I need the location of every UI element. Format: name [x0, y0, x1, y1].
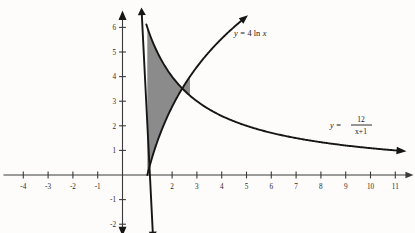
y-tick-label: 1	[112, 147, 116, 155]
eq1-lhs: y	[233, 29, 238, 38]
graph-figure: -4-3-2-1234567891011 -2-1123456 y=4lnx y…	[0, 0, 415, 233]
eq2-equals: =	[336, 121, 341, 130]
x-tick-label: 10	[367, 183, 375, 191]
y-tick-label: 6	[112, 24, 116, 32]
svg-text:y=4lnx: y=4lnx	[233, 29, 267, 38]
y-tick-label: 3	[112, 98, 116, 106]
eq1-equals: =	[240, 29, 245, 38]
x-tick-label: 7	[294, 183, 298, 191]
x-tick-label: 8	[319, 183, 323, 191]
x-tick-label: -4	[20, 183, 26, 191]
annotation-label-ln: y=4lnx	[233, 29, 267, 38]
coordinate-plane-svg: -4-3-2-1234567891011 -2-1123456 y=4lnx y…	[0, 0, 415, 233]
y-tick-label: -1	[110, 196, 116, 204]
x-tick-label: 5	[245, 183, 249, 191]
boundary-line-up-arrow-icon	[138, 8, 146, 16]
annotation-label-hyperbola: y= 12 x+1	[329, 115, 372, 136]
x-tick-label: 6	[270, 183, 274, 191]
x-tick-label: -3	[45, 183, 51, 191]
x-tick-label: -2	[70, 183, 76, 191]
x-axis-arrow-icon	[405, 172, 413, 178]
svg-text:y=: y=	[329, 121, 341, 130]
x-tick-label: 4	[220, 183, 224, 191]
eq2-numerator: 12	[357, 115, 365, 124]
curves-group	[138, 8, 407, 233]
axes-group	[3, 11, 413, 233]
x-tick-label: 9	[344, 183, 348, 191]
y-axis-down-arrow-icon	[119, 227, 127, 233]
y-tick-label: 4	[112, 73, 116, 81]
boundary-line-down-arrow-icon	[149, 231, 157, 233]
x-tick-label: 2	[170, 183, 174, 191]
y-axis-up-arrow-icon	[119, 11, 127, 21]
eq2-denominator: x+1	[355, 127, 367, 136]
y-axis-ticks: -2-1123456	[110, 24, 126, 229]
eq1-variable: x	[262, 29, 267, 38]
y-tick-label: 5	[112, 49, 116, 57]
x-tick-label: 11	[392, 183, 399, 191]
curve-12-over-x-plus-1-arrow-icon	[396, 147, 406, 155]
eq1-function: ln	[254, 29, 261, 38]
eq2-lhs: y	[329, 121, 334, 130]
x-tick-label: -1	[95, 183, 101, 191]
x-axis-ticks: -4-3-2-1234567891011	[20, 172, 399, 191]
y-tick-label: 2	[112, 123, 116, 131]
x-tick-label: 3	[195, 183, 199, 191]
eq1-coefficient: 4	[247, 29, 252, 38]
y-tick-label: -2	[110, 221, 116, 229]
